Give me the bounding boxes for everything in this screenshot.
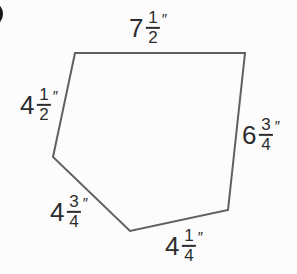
- fraction-denominator: 2: [39, 106, 48, 123]
- fraction-numerator: 1: [37, 87, 50, 106]
- inch-mark: ″: [275, 118, 280, 133]
- side-label-lower-left: 4 3 4 ″: [50, 194, 88, 230]
- fraction-denominator: 4: [261, 136, 270, 153]
- label-whole-number: 4: [50, 199, 64, 225]
- side-label-top: 7 1 2 ″: [129, 10, 167, 46]
- cutoff-bullet-icon: [0, 1, 3, 27]
- fraction-denominator: 4: [184, 247, 193, 264]
- fraction-numerator: 3: [67, 194, 80, 213]
- fraction-numerator: 1: [182, 228, 195, 247]
- label-whole-number: 4: [165, 233, 179, 259]
- label-whole-number: 7: [129, 15, 143, 41]
- label-fraction: 1 4: [182, 228, 195, 264]
- inch-mark: ″: [198, 229, 203, 244]
- fraction-numerator: 1: [146, 10, 159, 29]
- side-label-bottom: 4 1 4 ″: [165, 228, 203, 264]
- inch-mark: ″: [83, 195, 88, 210]
- worksheet-figure: 7 1 2 ″ 4 1 2 ″ 6 3 4 ″ 4 3 4 ″ 4: [0, 0, 297, 274]
- side-label-right: 6 3 4 ″: [242, 117, 280, 153]
- label-fraction: 3 4: [259, 117, 272, 153]
- fraction-denominator: 2: [148, 29, 157, 46]
- fraction-denominator: 4: [69, 213, 78, 230]
- label-whole-number: 6: [242, 122, 256, 148]
- label-whole-number: 4: [20, 92, 34, 118]
- label-fraction: 1 2: [146, 10, 159, 46]
- fraction-numerator: 3: [259, 117, 272, 136]
- inch-mark: ″: [162, 11, 167, 26]
- label-fraction: 1 2: [37, 87, 50, 123]
- side-label-upper-left: 4 1 2 ″: [20, 87, 58, 123]
- label-fraction: 3 4: [67, 194, 80, 230]
- inch-mark: ″: [53, 88, 58, 103]
